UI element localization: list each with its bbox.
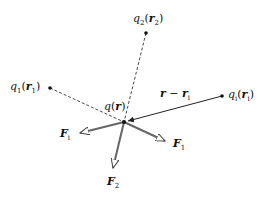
dashed-line-q2 <box>124 33 146 122</box>
charge-dot-q2 <box>144 31 148 35</box>
label-force-fi: Fi <box>60 128 70 142</box>
force-arrow-f1 <box>124 122 165 141</box>
label-force-f1: F1 <box>173 138 185 152</box>
charge-dot-center <box>122 120 126 124</box>
charge-dot-q1 <box>48 86 52 90</box>
force-arrow-fi <box>80 122 124 133</box>
charge-dot-qi <box>220 94 224 98</box>
label-q1: q1(r1) <box>10 81 40 95</box>
label-center-q: q(r) <box>104 101 125 112</box>
force-arrow-f2 <box>113 122 124 168</box>
label-q2: q2(r2) <box>133 13 163 27</box>
label-qi: qi(ri) <box>228 89 254 103</box>
label-force-f2: F2 <box>107 176 119 190</box>
label-r-minus-ri: r − ri <box>160 88 190 102</box>
